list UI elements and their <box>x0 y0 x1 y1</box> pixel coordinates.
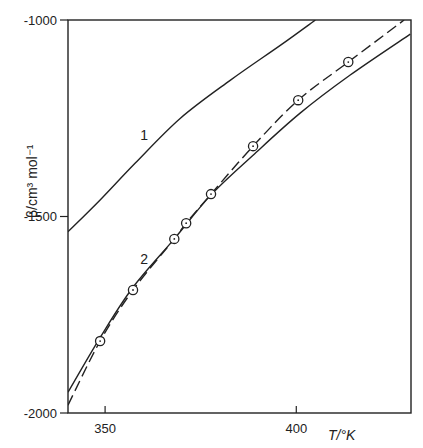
plot-frame <box>68 20 411 413</box>
curve-label-2: 2 <box>140 251 148 267</box>
data-point-dot <box>173 238 175 240</box>
data-point-dot <box>252 145 254 147</box>
y-tick-label: -2000 <box>24 406 57 421</box>
x-tick-label: 400 <box>285 421 307 436</box>
y-axis-label: β/cm³ mol⁻¹ <box>24 144 40 218</box>
x-axis-label: T/°K <box>328 427 356 443</box>
curve-annotations: 12 <box>140 127 148 267</box>
curve-2-dashed <box>68 20 404 405</box>
curve-label-1: 1 <box>140 127 148 143</box>
data-point-dot <box>99 340 101 342</box>
data-point-dot <box>185 222 187 224</box>
data-point-dot <box>132 289 134 291</box>
curve-1-solid <box>68 20 315 232</box>
data-point-dot <box>297 99 299 101</box>
curve-2-solid <box>68 34 410 392</box>
x-axis-ticks: 350400 <box>94 406 307 436</box>
data-point-dot <box>347 61 349 63</box>
curves <box>68 20 410 405</box>
beta-vs-temperature-chart: -1000-1500-2000 350400 12 T/°K β/cm³ mol… <box>0 0 423 448</box>
data-markers <box>96 57 353 345</box>
x-tick-label: 350 <box>94 421 116 436</box>
data-point-dot <box>210 193 212 195</box>
y-tick-label: -1000 <box>24 13 57 28</box>
plot-area-border <box>68 20 411 413</box>
